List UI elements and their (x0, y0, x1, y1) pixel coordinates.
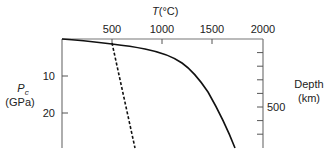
right-axis-title: Depth (294, 78, 323, 90)
left-tick-label: 20 (43, 107, 55, 119)
right-tick-label: 500 (267, 101, 285, 113)
left-axis-title: Pc (17, 82, 28, 97)
dashed-line (112, 43, 135, 148)
x-tick-label: 500 (103, 23, 121, 35)
x-axis-title: T(°C) (152, 5, 178, 17)
x-tick-label: 1000 (150, 23, 174, 35)
x-tick-label: 1500 (200, 23, 224, 35)
chart: 500 1000 1500 2000 T(°C) 10 20 Pc (GPa) … (0, 0, 330, 157)
right-ticks (257, 53, 263, 135)
left-axis-unit: (GPa) (5, 96, 34, 108)
right-axis-unit: (km) (298, 92, 320, 104)
solid-curve (62, 39, 235, 148)
left-tick-label: 10 (43, 70, 55, 82)
x-tick-label: 2000 (251, 23, 275, 35)
